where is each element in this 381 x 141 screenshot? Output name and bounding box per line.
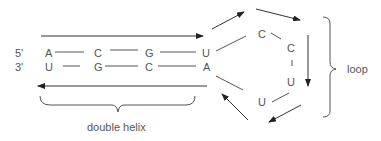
loop-brace <box>323 17 336 117</box>
loop-arrow-5 <box>222 94 248 120</box>
double-helix-label: double helix <box>87 121 146 133</box>
loop-base-3: U <box>287 76 295 88</box>
loop-arrow-1 <box>212 12 244 29</box>
bottom-base-1: U <box>45 61 53 73</box>
loop-base-4: U <box>258 96 266 108</box>
loop-arrow-4 <box>269 105 301 122</box>
double-helix-brace <box>40 96 195 112</box>
loop-base-2: C <box>287 42 295 54</box>
bottom-base-2: G <box>94 61 103 73</box>
bottom-base-4: A <box>203 61 211 73</box>
bottom-base-3: C <box>145 61 153 73</box>
top-base-1: A <box>45 47 53 59</box>
rna-hairpin-diagram: 5' 3' A C G U U G C A double helix C C U… <box>0 0 381 141</box>
loop-connector-u-u <box>272 93 289 102</box>
top-base-3: G <box>145 47 154 59</box>
loop-base-1: C <box>258 28 266 40</box>
loop-arrow-2 <box>256 9 300 20</box>
loop-label: loop <box>347 63 368 75</box>
loop-connector-c-c <box>271 33 281 39</box>
three-prime-label: 3' <box>15 61 23 73</box>
five-prime-label: 5' <box>15 47 23 59</box>
top-base-2: C <box>94 47 102 59</box>
top-base-4: U <box>202 47 210 59</box>
loop-connector-upper <box>216 36 246 51</box>
loop-connector-lower <box>216 76 243 90</box>
